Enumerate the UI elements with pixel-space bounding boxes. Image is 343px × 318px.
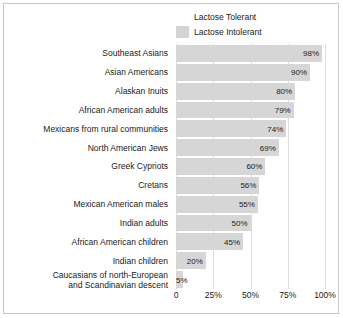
bar-value-label: 5% [176,275,183,284]
bar-row[interactable]: 80% [176,82,325,101]
bar-row[interactable]: 20% [176,251,325,270]
chart-legend: Lactose TolerantLactose Intolerant [176,10,326,40]
legend-item[interactable]: Lactose Intolerant [176,25,326,39]
category-label: Alaskan Inuits [115,86,168,96]
x-tick-label: 50% [242,290,259,300]
legend-item[interactable]: Lactose Tolerant [176,10,326,24]
legend-label: Lactose Tolerant [194,12,256,22]
x-tick-label: 0 [174,290,179,300]
bar-row[interactable]: 74% [176,119,325,138]
x-tick-label: 75% [279,290,296,300]
bar-value-label: 69% [176,143,279,152]
legend-label: Lactose Intolerant [194,27,262,37]
bar-row[interactable]: 56% [176,176,325,195]
legend-swatch-icon [176,11,189,23]
x-tick-label: 100% [314,290,336,300]
category-label-row: African American adults [6,101,172,120]
bar-row[interactable]: 5% [176,270,325,289]
bar-value-label: 20% [176,256,206,265]
category-label-row: Mexicans from rural communities [6,119,172,138]
bar-row[interactable]: 55% [176,195,325,214]
bar-value-label: 79% [176,105,294,114]
category-axis-labels: Southeast AsiansAsian AmericansAlaskan I… [6,44,172,289]
category-label: Mexican American males [74,199,168,209]
bar-value-label: 55% [176,200,258,209]
category-label-row: Asian Americans [6,63,172,82]
category-label-row: African American children [6,232,172,251]
x-tick-label: 25% [205,290,222,300]
bar-row[interactable]: 69% [176,138,325,157]
category-label-row: Caucasians of north-European and Scandin… [6,270,172,289]
category-label: Caucasians of north-European and Scandin… [53,270,168,290]
bar-value-label: 98% [176,49,322,58]
bar-value-label: 50% [176,219,251,228]
category-label-row: Alaskan Inuits [6,82,172,101]
category-label: Cretans [138,180,168,190]
bar-row[interactable]: 45% [176,232,325,251]
bar-row[interactable]: 90% [176,63,325,82]
category-label: Asian Americans [105,67,168,77]
bar-value-label: 74% [176,124,286,133]
category-label-row: Greek Cypriots [6,157,172,176]
category-label: African American adults [79,105,168,115]
bar-value-label: 45% [176,237,243,246]
bar-row[interactable]: 50% [176,214,325,233]
category-label-row: Southeast Asians [6,44,172,63]
x-axis-tick-labels: 025%50%75%100% [176,290,325,304]
category-label-row: North American Jews [6,138,172,157]
bar-row[interactable]: 60% [176,157,325,176]
bar-value-label: 80% [176,87,295,96]
chart-figure: Lactose TolerantLactose Intolerant South… [0,0,343,318]
category-label-row: Mexican American males [6,195,172,214]
bar-row[interactable]: 98% [176,44,325,63]
category-label-row: Indian children [6,251,172,270]
category-label-row: Cretans [6,176,172,195]
category-label: Indian adults [120,218,168,228]
bar-row[interactable]: 79% [176,101,325,120]
category-label: Indian children [113,256,168,266]
category-label: Mexicans from rural communities [43,124,168,134]
category-label-row: Indian adults [6,214,172,233]
bar-value-label: 56% [176,181,259,190]
category-label: Southeast Asians [102,48,168,58]
bar-series: 98%90%80%79%74%69%60%56%55%50%45%20%5% [176,44,325,289]
bar-value-label: 60% [176,162,265,171]
plot-area: 98%90%80%79%74%69%60%56%55%50%45%20%5% [176,44,325,289]
bar-value-label: 90% [176,68,310,77]
category-label: North American Jews [88,143,168,153]
legend-swatch-icon [176,26,189,38]
category-label: Greek Cypriots [111,161,168,171]
category-label: African American children [72,237,168,247]
